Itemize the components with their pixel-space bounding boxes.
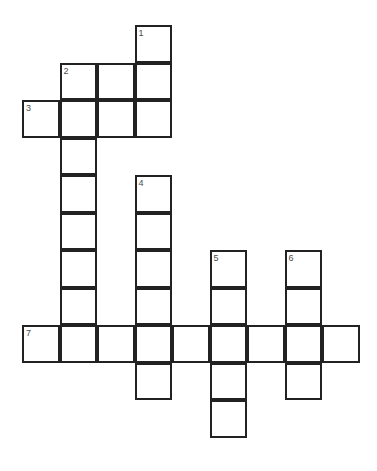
grid-cell[interactable] — [135, 363, 173, 401]
grid-cell[interactable] — [172, 325, 210, 363]
grid-cell[interactable] — [97, 63, 135, 101]
grid-cell[interactable] — [60, 288, 98, 326]
grid-cell[interactable] — [210, 325, 248, 363]
grid-cell[interactable] — [247, 325, 285, 363]
crossword-puzzle: 1234567 — [0, 0, 377, 471]
grid-cell[interactable] — [135, 63, 173, 101]
grid-cell[interactable] — [60, 100, 98, 138]
grid-cell[interactable] — [60, 175, 98, 213]
grid-cell[interactable] — [135, 175, 173, 213]
grid-cell[interactable] — [22, 325, 60, 363]
grid-cell[interactable] — [60, 325, 98, 363]
grid-cell[interactable] — [135, 288, 173, 326]
grid-cell[interactable] — [135, 213, 173, 251]
grid-cell[interactable] — [60, 250, 98, 288]
grid-cell[interactable] — [210, 250, 248, 288]
grid-cell[interactable] — [135, 100, 173, 138]
grid-cell[interactable] — [60, 63, 98, 101]
grid-cell[interactable] — [285, 325, 323, 363]
grid-cell[interactable] — [210, 288, 248, 326]
grid-cell[interactable] — [135, 250, 173, 288]
grid-cell[interactable] — [135, 325, 173, 363]
grid-cell[interactable] — [135, 25, 173, 63]
grid-cell[interactable] — [97, 100, 135, 138]
crossword-grid[interactable]: 1234567 — [0, 0, 377, 471]
grid-cell[interactable] — [97, 325, 135, 363]
grid-cell[interactable] — [210, 363, 248, 401]
grid-cell[interactable] — [60, 213, 98, 251]
grid-cell[interactable] — [285, 363, 323, 401]
grid-cell[interactable] — [285, 288, 323, 326]
grid-cell[interactable] — [285, 250, 323, 288]
grid-cell[interactable] — [60, 138, 98, 176]
grid-cell[interactable] — [322, 325, 360, 363]
grid-cell[interactable] — [22, 100, 60, 138]
grid-cell[interactable] — [210, 400, 248, 438]
